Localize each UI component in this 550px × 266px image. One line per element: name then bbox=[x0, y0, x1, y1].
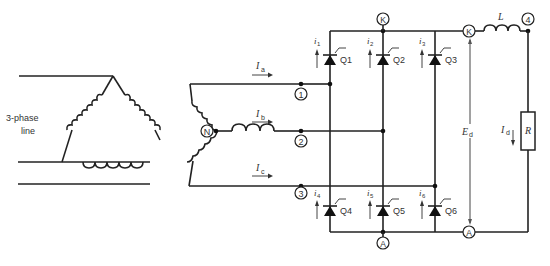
load-current-id: I d bbox=[500, 124, 515, 146]
source-label-line2: line bbox=[21, 126, 35, 136]
anode-node-bottom: A bbox=[377, 232, 389, 249]
cathode-node-top: K bbox=[377, 13, 389, 31]
svg-text:b: b bbox=[261, 114, 265, 121]
phase-current-ic: I c bbox=[252, 162, 273, 179]
svg-text:I: I bbox=[255, 60, 260, 71]
svg-text:E: E bbox=[461, 126, 468, 137]
svg-text:3: 3 bbox=[298, 189, 303, 199]
svg-text:Q6: Q6 bbox=[445, 206, 457, 216]
resistor-r: R bbox=[475, 31, 535, 232]
thyristor-q2: Q2 i 2 bbox=[367, 36, 405, 68]
svg-text:Q1: Q1 bbox=[340, 55, 352, 65]
phase-current-ia: I a bbox=[252, 60, 273, 78]
cathode-node-output: K bbox=[463, 25, 475, 37]
thyristor-q5: Q5 i 5 bbox=[367, 188, 405, 219]
thyristor-q3: Q3 i 3 bbox=[419, 36, 457, 68]
svg-text:L: L bbox=[497, 11, 504, 22]
thyristor-q1: Q1 i 1 bbox=[314, 36, 352, 68]
terminal-1: 1 bbox=[295, 88, 307, 100]
delta-primary-winding bbox=[62, 76, 160, 168]
svg-text:Q3: Q3 bbox=[445, 55, 457, 65]
svg-text:A: A bbox=[466, 228, 472, 238]
svg-text:Q2: Q2 bbox=[393, 55, 405, 65]
svg-text:2: 2 bbox=[370, 41, 374, 47]
svg-text:4: 4 bbox=[317, 193, 321, 199]
svg-text:a: a bbox=[261, 66, 265, 73]
svg-text:Q5: Q5 bbox=[393, 206, 405, 216]
svg-text:6: 6 bbox=[422, 193, 426, 199]
svg-text:1: 1 bbox=[298, 90, 303, 100]
phase-current-ib: I b bbox=[252, 108, 273, 125]
three-phase-line bbox=[18, 76, 150, 184]
inductor-l: L bbox=[475, 11, 528, 31]
terminal-3: 3 bbox=[295, 187, 307, 199]
svg-text:K: K bbox=[466, 27, 472, 37]
neutral-node-label: N bbox=[204, 127, 211, 137]
svg-text:2: 2 bbox=[298, 137, 303, 147]
terminal-2: 2 bbox=[295, 135, 307, 147]
svg-text:Q4: Q4 bbox=[340, 206, 352, 216]
circuit-diagram: 3-phase line N I a bbox=[0, 0, 550, 266]
svg-text:d: d bbox=[506, 129, 510, 136]
svg-text:I: I bbox=[500, 124, 505, 135]
svg-text:R: R bbox=[524, 125, 531, 136]
svg-text:c: c bbox=[261, 168, 265, 175]
svg-text:3: 3 bbox=[422, 41, 426, 47]
svg-text:d: d bbox=[469, 131, 473, 138]
svg-text:A: A bbox=[380, 239, 386, 249]
svg-text:4: 4 bbox=[525, 15, 530, 25]
thyristor-q6: Q6 i 6 bbox=[419, 188, 457, 219]
svg-text:K: K bbox=[380, 15, 386, 25]
svg-text:1: 1 bbox=[317, 41, 321, 47]
source-label-line1: 3-phase bbox=[6, 113, 39, 123]
svg-text:5: 5 bbox=[370, 193, 374, 199]
svg-text:I: I bbox=[255, 108, 260, 119]
output-voltage-ed: E d bbox=[461, 38, 479, 225]
svg-text:I: I bbox=[255, 162, 260, 173]
anode-node-output: A bbox=[463, 226, 475, 238]
thyristor-q4: Q4 i 4 bbox=[314, 188, 352, 219]
